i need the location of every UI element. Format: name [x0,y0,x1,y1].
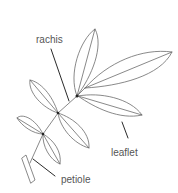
petiole-leader-line [33,159,55,176]
leaflet-label: leaflet [111,148,138,158]
leaflet-leader-line [122,122,128,138]
petiole-label: petiole [61,175,90,185]
rachis-leader-line [51,49,69,101]
node-terminal [76,95,79,98]
node-lower [42,133,45,136]
compound-leaf-diagram [0,0,178,193]
rachis-label: rachis [36,35,63,45]
node-mid [57,112,60,115]
